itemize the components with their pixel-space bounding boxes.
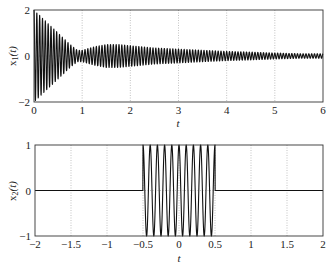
x-tick-label: 6	[320, 104, 326, 116]
plot-x1: 0123456 20−2 t x1(t)	[6, 4, 326, 129]
x-tick-label: −1	[101, 238, 113, 250]
y-axis-label-top: x1(t)	[6, 46, 20, 66]
x-tick-label: −1.5	[61, 238, 81, 250]
y-tick-label: −1	[19, 230, 31, 242]
x-tick-labels-top: 0123456	[31, 104, 326, 116]
x-tick-label: 2	[320, 238, 326, 250]
x-tick-label: 1	[248, 238, 254, 250]
x-tick-label: 1.5	[280, 238, 294, 250]
y-tick-label: 1	[26, 139, 32, 151]
y-tick-labels-bottom: 10−1	[19, 139, 31, 242]
y-tick-label: 2	[25, 4, 31, 16]
x-tick-label: −0.5	[133, 238, 153, 250]
x-axis-label-bottom: t	[177, 252, 181, 264]
x-tick-labels-bottom: −2−1.5−1−0.500.511.52	[29, 238, 326, 250]
svg-text:x1(t): x1(t)	[6, 46, 20, 66]
x-tick-label: 0.5	[208, 238, 222, 250]
x-tick-label: 0	[31, 104, 37, 116]
x-tick-label: 5	[272, 104, 278, 116]
y-tick-label: 0	[26, 185, 32, 197]
x-tick-label: 2	[128, 104, 134, 116]
y-tick-labels-top: 20−2	[18, 4, 30, 108]
x-tick-label: 4	[224, 104, 230, 116]
figure: 0123456 20−2 t x1(t) −2−1.5−1−0.500.511.…	[0, 0, 333, 272]
y-tick-label: 0	[25, 50, 31, 62]
x-tick-label: 3	[176, 104, 182, 116]
y-axis-label-bottom: x2(t)	[6, 181, 20, 201]
x-axis-label-top: t	[176, 117, 180, 129]
y-tick-label: −2	[18, 96, 30, 108]
x-tick-label: 0	[176, 238, 182, 250]
plot-x2: −2−1.5−1−0.500.511.52 10−1 t x2(t)	[6, 139, 326, 264]
x-tick-label: 1	[79, 104, 85, 116]
svg-text:x2(t): x2(t)	[6, 181, 20, 201]
